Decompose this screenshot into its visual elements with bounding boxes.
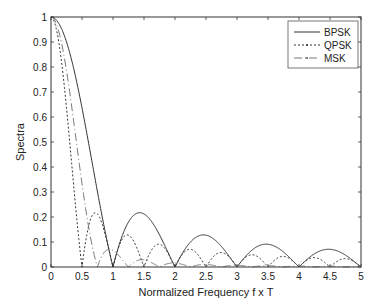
y-tick-label: 0.5 xyxy=(33,137,47,148)
y-tick-label: 0.7 xyxy=(33,87,47,98)
y-tick-label: 0.1 xyxy=(33,237,47,248)
legend-qpsk-marker-icon xyxy=(306,44,308,46)
x-tick-label: 5 xyxy=(358,271,364,282)
x-tick-label: 3.5 xyxy=(261,271,275,282)
x-tick-label: 0.5 xyxy=(75,271,89,282)
y-tick-label: 0.9 xyxy=(33,37,47,48)
y-tick-label: 0.4 xyxy=(33,162,47,173)
y-tick-label: 0.6 xyxy=(33,112,47,123)
spectra-chart: 00.10.20.30.40.50.60.70.80.91 00.511.522… xyxy=(0,0,381,306)
x-tick-label: 3 xyxy=(234,271,240,282)
x-tick-label: 0 xyxy=(48,271,54,282)
y-tick-label: 1 xyxy=(41,12,47,23)
x-tick-label: 1 xyxy=(110,271,116,282)
legend-label-bpsk: BPSK xyxy=(324,27,351,38)
legend-msk-marker-icon xyxy=(306,57,308,59)
x-tick-label: 2.5 xyxy=(199,271,213,282)
x-tick-label: 4 xyxy=(296,271,302,282)
x-tick-label: 1.5 xyxy=(137,271,151,282)
y-tick-label: 0.3 xyxy=(33,187,47,198)
y-tick-label: 0.8 xyxy=(33,62,47,73)
y-tick-label: 0 xyxy=(41,262,47,273)
y-axis-label: Spectra xyxy=(14,122,26,161)
x-tick-label: 4.5 xyxy=(323,271,337,282)
legend-label-msk: MSK xyxy=(324,53,346,64)
legend: BPSK QPSK MSK xyxy=(288,21,358,68)
y-tick-label: 0.2 xyxy=(33,212,47,223)
x-axis-label: Normalized Frequency f x T xyxy=(139,286,274,298)
legend-label-qpsk: QPSK xyxy=(324,40,352,51)
x-tick-label: 2 xyxy=(172,271,178,282)
